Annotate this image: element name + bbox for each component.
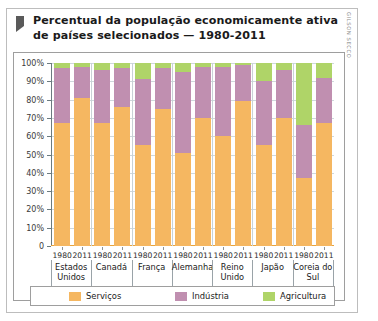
y-axis-tick <box>47 173 51 174</box>
bar-segment-industria <box>195 67 211 118</box>
page-title: Percentual da população economicamente a… <box>33 14 342 43</box>
bar-coreia-do-sul-2011[interactable] <box>316 63 332 246</box>
chart-page: Percentual da população economicamente a… <box>0 0 378 321</box>
x-axis-tick <box>163 247 164 250</box>
bar-segment-agricultura <box>175 63 191 72</box>
bar-series-container <box>52 63 334 246</box>
y-axis-tick-label: 20% <box>26 205 44 214</box>
bar-segment-servicos <box>54 123 70 246</box>
y-axis-tick-label: 80% <box>26 95 44 104</box>
bar-segment-industria <box>155 68 171 108</box>
bar-segment-industria <box>114 68 130 106</box>
bar-segment-industria <box>74 67 90 98</box>
bar-canadá-1980[interactable] <box>94 63 110 246</box>
y-axis-tick-label: 10% <box>26 223 44 232</box>
bar-segment-industria <box>276 70 292 118</box>
legend-item-servicos[interactable]: Serviços <box>69 291 121 301</box>
bar-segment-servicos <box>175 153 191 246</box>
bar-estados-unidos-1980[interactable] <box>54 63 70 246</box>
bar-segment-agricultura <box>256 63 272 81</box>
x-axis-tick <box>284 247 285 250</box>
y-axis-tick-label: 30% <box>26 187 44 196</box>
group-separator <box>293 63 294 246</box>
bar-segment-agricultura <box>135 63 151 79</box>
y-axis-tick-label: 70% <box>26 113 44 122</box>
y-axis-tick-label: 40% <box>26 168 44 177</box>
y-axis-tick-label: 0 <box>39 242 44 251</box>
bar-segment-servicos <box>316 123 332 246</box>
bar-segment-industria <box>54 68 70 123</box>
group-separator <box>172 63 173 246</box>
bar-segment-industria <box>215 67 231 137</box>
legend-swatch-icon <box>263 292 275 301</box>
bar-segment-industria <box>296 125 312 178</box>
plot-area: 010%20%30%40%50%60%70%80%90%100% <box>51 63 334 246</box>
x-axis-country-label: Alemanha <box>172 262 212 272</box>
bar-segment-servicos <box>114 107 130 246</box>
bar-canadá-2011[interactable] <box>114 63 130 246</box>
x-axis-year-label: 2011 <box>309 251 339 260</box>
x-axis-tick <box>82 247 83 250</box>
bar-japão-2011[interactable] <box>276 63 292 246</box>
page-frame-bottom <box>6 312 358 313</box>
bar-alemanha-1980[interactable] <box>175 63 191 246</box>
group-separator <box>212 63 213 246</box>
group-separator <box>132 63 133 246</box>
x-axis-country-label: Canadá <box>91 262 131 272</box>
bar-frança-1980[interactable] <box>135 63 151 246</box>
bar-segment-servicos <box>94 123 110 246</box>
bookmark-icon <box>16 16 27 31</box>
bar-japão-1980[interactable] <box>256 63 272 246</box>
x-axis-tick <box>62 247 63 250</box>
chart-card: 010%20%30%40%50%60%70%80%90%100% 1980201… <box>13 52 345 301</box>
x-axis-tick <box>223 247 224 250</box>
bar-segment-servicos <box>235 101 251 246</box>
x-axis-tick <box>122 247 123 250</box>
legend-label: Agricultura <box>280 291 326 301</box>
x-axis-tick <box>102 247 103 250</box>
bar-segment-servicos <box>74 98 90 246</box>
y-axis-tick <box>47 118 51 119</box>
bar-segment-industria <box>135 79 151 145</box>
bar-segment-servicos <box>256 145 272 246</box>
x-axis-country-label: Reino Unido <box>212 262 252 282</box>
chart-title-block: Percentual da população economicamente a… <box>16 14 342 43</box>
x-axis-country-label: Coreia do Sul <box>293 262 333 282</box>
page-frame-left <box>6 8 7 313</box>
x-axis-tick <box>203 247 204 250</box>
y-axis-tick <box>47 136 51 137</box>
legend-label: Serviços <box>86 291 121 301</box>
x-axis-tick <box>324 247 325 250</box>
bar-segment-agricultura <box>276 63 292 70</box>
legend-swatch-icon <box>69 292 81 301</box>
bar-segment-industria <box>256 81 272 145</box>
legend-item-industria[interactable]: Indústria <box>175 291 229 301</box>
bar-frança-2011[interactable] <box>155 63 171 246</box>
bar-reino-unido-2011[interactable] <box>235 63 251 246</box>
bar-segment-servicos <box>155 109 171 246</box>
x-axis-country-label: Japão <box>252 262 292 272</box>
x-axis-tick <box>183 247 184 250</box>
bar-segment-agricultura <box>94 63 110 70</box>
page-frame-top <box>6 8 358 9</box>
bar-segment-servicos <box>276 118 292 246</box>
x-axis-tick <box>243 247 244 250</box>
y-axis-tick <box>47 100 51 101</box>
legend-item-agricultura[interactable]: Agricultura <box>263 291 326 301</box>
x-axis-tick <box>264 247 265 250</box>
x-axis-country-label: Estados Unidos <box>51 262 91 282</box>
y-axis-tick-label: 60% <box>26 132 44 141</box>
bar-estados-unidos-2011[interactable] <box>74 63 90 246</box>
bar-coreia-do-sul-1980[interactable] <box>296 63 312 246</box>
y-axis-tick-label: 90% <box>26 77 44 86</box>
bar-segment-agricultura <box>316 63 332 78</box>
bar-segment-servicos <box>215 136 231 246</box>
group-separator <box>252 63 253 246</box>
y-axis-tick-label: 50% <box>26 150 44 159</box>
bar-segment-servicos <box>195 118 211 246</box>
y-axis-tick <box>47 63 51 64</box>
bar-segment-industria <box>316 78 332 124</box>
bar-reino-unido-1980[interactable] <box>215 63 231 246</box>
bar-segment-agricultura <box>296 63 312 125</box>
bar-alemanha-2011[interactable] <box>195 63 211 246</box>
